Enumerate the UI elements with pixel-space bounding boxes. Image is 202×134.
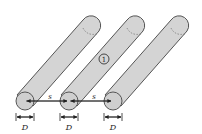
cylinder-1 [16,16,101,110]
diameter-label-1: D [21,123,29,132]
cylinder-array-diagram: 1 s s D D D [0,0,202,134]
cylinder-3 [104,16,189,110]
spacing-label-2: s [92,93,96,101]
cylinder-number-label: 1 [102,56,106,64]
diameter-dimension-1: D [16,113,34,132]
diameter-label-2: D [65,123,73,132]
spacing-label-1: s [48,93,52,101]
cylinder-2: 1 [60,16,145,110]
diameter-label-3: D [109,123,117,132]
diameter-dimension-2: D [60,113,78,132]
diameter-dimension-3: D [104,113,122,132]
